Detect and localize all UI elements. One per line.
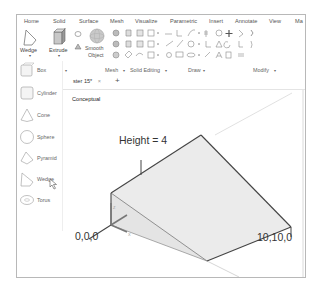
- sphere-icon: [19, 129, 35, 145]
- wedge-icon: [19, 171, 35, 187]
- cone-icon: [19, 107, 35, 123]
- flyout-label: Pyramid: [37, 155, 57, 161]
- autocad-window: Home Solid Surface Mesh Visualize Parame…: [16, 14, 306, 278]
- flyout-label: Box: [37, 67, 46, 73]
- corner-annotation: 10,10,0: [257, 231, 292, 243]
- flyout-item-pyramid[interactable]: Pyramid: [19, 150, 63, 168]
- flyout-label: Sphere: [37, 134, 54, 140]
- primitive-flyout-menu: Box Cylinder Cone Sphere Pyramid: [17, 61, 63, 231]
- flyout-label: Cylinder: [37, 90, 57, 96]
- torus-icon: [19, 192, 35, 208]
- box-icon: [19, 62, 35, 78]
- flyout-item-sphere[interactable]: Sphere: [19, 129, 63, 147]
- mouse-cursor-icon: [49, 178, 59, 190]
- flyout-item-cylinder[interactable]: Cylinder: [19, 85, 63, 103]
- flyout-item-box[interactable]: Box: [19, 62, 63, 80]
- svg-text:X: X: [128, 232, 131, 237]
- flyout-item-torus[interactable]: Torus: [19, 192, 63, 210]
- origin-annotation: 0,0,0: [75, 230, 98, 242]
- height-annotation: Height = 4: [119, 134, 167, 146]
- flyout-label: Cone: [37, 112, 50, 118]
- pyramid-icon: [19, 150, 35, 166]
- construction-line: [215, 93, 292, 135]
- construction-line: [207, 261, 239, 277]
- flyout-item-wedge[interactable]: Wedge: [19, 171, 63, 189]
- flyout-label: Torus: [37, 197, 50, 203]
- flyout-item-cone[interactable]: Cone: [19, 107, 63, 125]
- cylinder-icon: [19, 85, 35, 101]
